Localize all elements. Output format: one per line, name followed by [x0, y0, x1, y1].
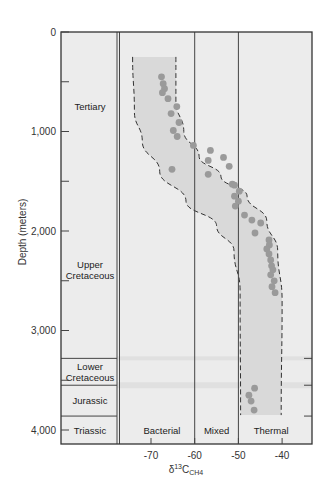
data-point [169, 166, 176, 173]
y-tick-label: 1,000 [31, 126, 56, 137]
y-tick-label: 4,000 [31, 425, 56, 436]
zone-label-bacterial: Bacterial [143, 425, 180, 436]
data-point [158, 73, 165, 80]
data-point [251, 385, 258, 392]
zone-label-mixed: Mixed [204, 425, 229, 436]
data-point [205, 157, 212, 164]
data-point [229, 181, 236, 188]
zone-label-thermal: Thermal [254, 425, 289, 436]
y-tick-label: 0 [50, 27, 56, 38]
data-point [226, 163, 233, 170]
x-axis-title: δ13CCH4 [169, 463, 204, 476]
x-tick-label: -70 [144, 450, 159, 461]
zone-labels: BacterialMixedThermal [143, 425, 288, 436]
data-point [266, 251, 273, 258]
data-point [272, 289, 279, 296]
data-point [173, 103, 180, 110]
faint-band [117, 382, 312, 388]
data-point [165, 95, 172, 102]
data-point [251, 407, 258, 414]
data-point [205, 171, 212, 178]
data-point [249, 217, 256, 224]
strat-label-upper-cretaceous: Cretaceous [66, 270, 115, 281]
data-point [174, 133, 181, 140]
data-point [269, 283, 276, 290]
strat-label-tertiary: Tertiary [74, 101, 105, 112]
data-point [271, 277, 278, 284]
x-tick-label: -40 [275, 450, 290, 461]
data-point [232, 203, 239, 210]
strat-label-triassic: Triassic [74, 425, 107, 436]
data-point [168, 110, 175, 117]
strat-label-jurassic: Jurassic [73, 395, 108, 406]
strat-label-lower-cretaceous: Lower [77, 361, 103, 372]
data-point [252, 230, 259, 237]
data-point [159, 89, 166, 96]
depth-vs-isotope-chart: TertiaryUpperCretaceousLowerCretaceousJu… [0, 0, 329, 491]
data-point [267, 257, 274, 264]
data-point [236, 188, 243, 195]
data-point [248, 398, 255, 405]
x-tick-label: -60 [187, 450, 202, 461]
data-point [257, 220, 264, 227]
data-point [176, 119, 183, 126]
strat-label-upper-cretaceous: Upper [77, 259, 103, 270]
data-point [246, 392, 253, 399]
data-point [190, 142, 197, 149]
x-tick-label: -50 [231, 450, 246, 461]
data-point [207, 147, 214, 154]
data-point [241, 212, 248, 219]
data-point [267, 271, 274, 278]
y-tick-label: 2,000 [31, 226, 56, 237]
strat-label-lower-cretaceous: Cretaceous [66, 372, 115, 383]
y-axis-title: Depth (meters) [17, 199, 28, 266]
y-tick-label: 3,000 [31, 325, 56, 336]
data-point [220, 154, 227, 161]
faint-band [117, 356, 312, 360]
data-point [170, 127, 177, 134]
